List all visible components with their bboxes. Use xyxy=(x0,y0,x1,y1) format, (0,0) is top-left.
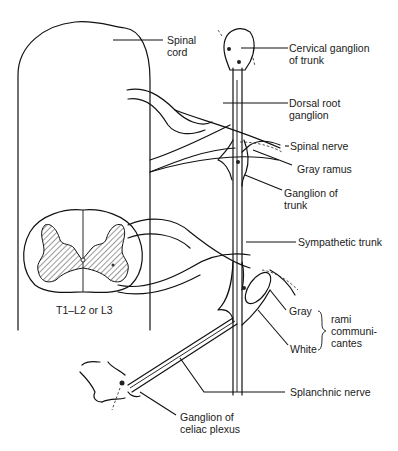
label-sympathetic-trunk: Sympathetic trunk xyxy=(298,236,382,248)
cervical-ganglion-shape xyxy=(218,29,255,70)
lower-ganglion-shape xyxy=(218,262,298,325)
spinal-cord-shape xyxy=(18,22,150,330)
label-rami-communicantes: rami communi- cantes xyxy=(331,313,377,349)
celiac-ganglion-shape xyxy=(80,362,140,410)
sympathetic-pathway-diagram: Spinal cord Cervical ganglion of trunk D… xyxy=(0,0,398,451)
label-white: White xyxy=(290,343,317,355)
label-splanchnic-nerve: Splanchnic nerve xyxy=(290,386,371,398)
label-spinal-nerve: Spinal nerve xyxy=(290,140,348,152)
label-cervical-ganglion: Cervical ganglion of trunk xyxy=(289,42,370,66)
diagram-artwork xyxy=(0,0,398,451)
trunk-ganglion-shape xyxy=(218,140,280,186)
splanchnic-nerve-line xyxy=(128,318,237,392)
label-dorsal-root-ganglion: Dorsal root ganglion xyxy=(289,97,340,121)
label-ganglion-of-trunk: Ganglion of trunk xyxy=(284,187,338,211)
sympathetic-trunk-line xyxy=(233,68,242,395)
spinal-cord-cross-section xyxy=(24,210,143,293)
label-gray-ramus: Gray ramus xyxy=(297,163,352,175)
label-gray: Gray xyxy=(289,305,312,317)
label-celiac-ganglion: Ganglion of celiac plexus xyxy=(180,411,240,435)
label-segment-range: T1–L2 or L3 xyxy=(56,304,113,316)
label-spinal-cord: Spinal cord xyxy=(167,34,196,58)
